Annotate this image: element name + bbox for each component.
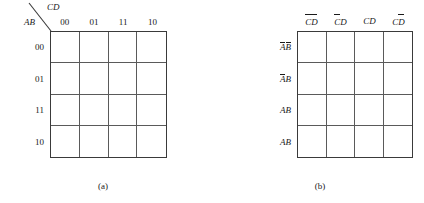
- kmap-cell[interactable]: [355, 32, 384, 63]
- kmap-cell[interactable]: [355, 95, 384, 126]
- kmap-cell[interactable]: [298, 95, 327, 126]
- kmap-cell[interactable]: [80, 32, 109, 63]
- kmap-cell[interactable]: [384, 95, 413, 126]
- kmap-cell[interactable]: [80, 63, 109, 94]
- kmap-cell[interactable]: [355, 63, 384, 94]
- kmap-cell[interactable]: [327, 95, 356, 126]
- corner-label-cd: CD: [47, 2, 60, 12]
- kmap-cell[interactable]: [51, 63, 80, 94]
- kmap-cell[interactable]: [80, 126, 109, 157]
- column-header-b-3: CD: [384, 13, 413, 30]
- kmap-cell[interactable]: [137, 32, 166, 63]
- column-headers-b: CD CD CD CD: [297, 13, 413, 29]
- kmap-cell[interactable]: [384, 63, 413, 94]
- kmap-grid-b: [297, 31, 413, 158]
- kmap-cell[interactable]: [298, 126, 327, 157]
- kmap-cell[interactable]: [327, 63, 356, 94]
- kmap-cell[interactable]: [298, 63, 327, 94]
- column-header-b-1: CD: [326, 13, 355, 30]
- row-labels-a: 00 01 11 10: [14, 31, 48, 158]
- column-header-a-2: 11: [109, 14, 138, 30]
- kmap-cell[interactable]: [109, 95, 138, 126]
- kmap-cell[interactable]: [109, 63, 138, 94]
- kmap-cell[interactable]: [137, 95, 166, 126]
- column-header-b-2: CD: [355, 13, 384, 30]
- row-label-b-0: AB: [261, 31, 295, 63]
- kmap-cell[interactable]: [327, 126, 356, 157]
- figure-b: CD CD CD CD AB AB AB AB (b): [212, 0, 424, 203]
- column-header-b-0: CD: [297, 13, 326, 30]
- kmap-cell[interactable]: [137, 126, 166, 157]
- column-headers-a: 00 01 11 10: [50, 14, 167, 30]
- kmap-grid-a: [50, 31, 167, 158]
- figure-a: CD AB 00 01 11 10 00 01 11 10 (a): [0, 0, 212, 203]
- kmap-cell[interactable]: [109, 126, 138, 157]
- row-labels-b: AB AB AB AB: [261, 31, 295, 158]
- row-label-b-3: AB: [261, 126, 295, 158]
- kmap-cell[interactable]: [384, 32, 413, 63]
- kmap-cell[interactable]: [137, 63, 166, 94]
- kmap-cell[interactable]: [298, 32, 327, 63]
- figure-caption-b: (b): [212, 181, 424, 191]
- row-label-a-3: 10: [14, 126, 48, 158]
- column-header-a-1: 01: [79, 14, 108, 30]
- kmap-cell[interactable]: [51, 32, 80, 63]
- figure-caption-a: (a): [0, 181, 212, 191]
- kmap-cell[interactable]: [384, 126, 413, 157]
- kmap-cell[interactable]: [355, 126, 384, 157]
- row-label-b-1: AB: [261, 63, 295, 95]
- column-header-a-0: 00: [50, 14, 79, 30]
- row-label-a-2: 11: [14, 95, 48, 127]
- row-label-a-0: 00: [14, 31, 48, 63]
- kmap-cell[interactable]: [51, 95, 80, 126]
- column-header-a-3: 10: [138, 14, 167, 30]
- row-label-a-1: 01: [14, 63, 48, 95]
- row-label-b-2: AB: [261, 95, 295, 127]
- kmap-cell[interactable]: [109, 32, 138, 63]
- kmap-cell[interactable]: [80, 95, 109, 126]
- kmap-cell[interactable]: [51, 126, 80, 157]
- kmap-cell[interactable]: [327, 32, 356, 63]
- corner-label-ab: AB: [24, 17, 35, 27]
